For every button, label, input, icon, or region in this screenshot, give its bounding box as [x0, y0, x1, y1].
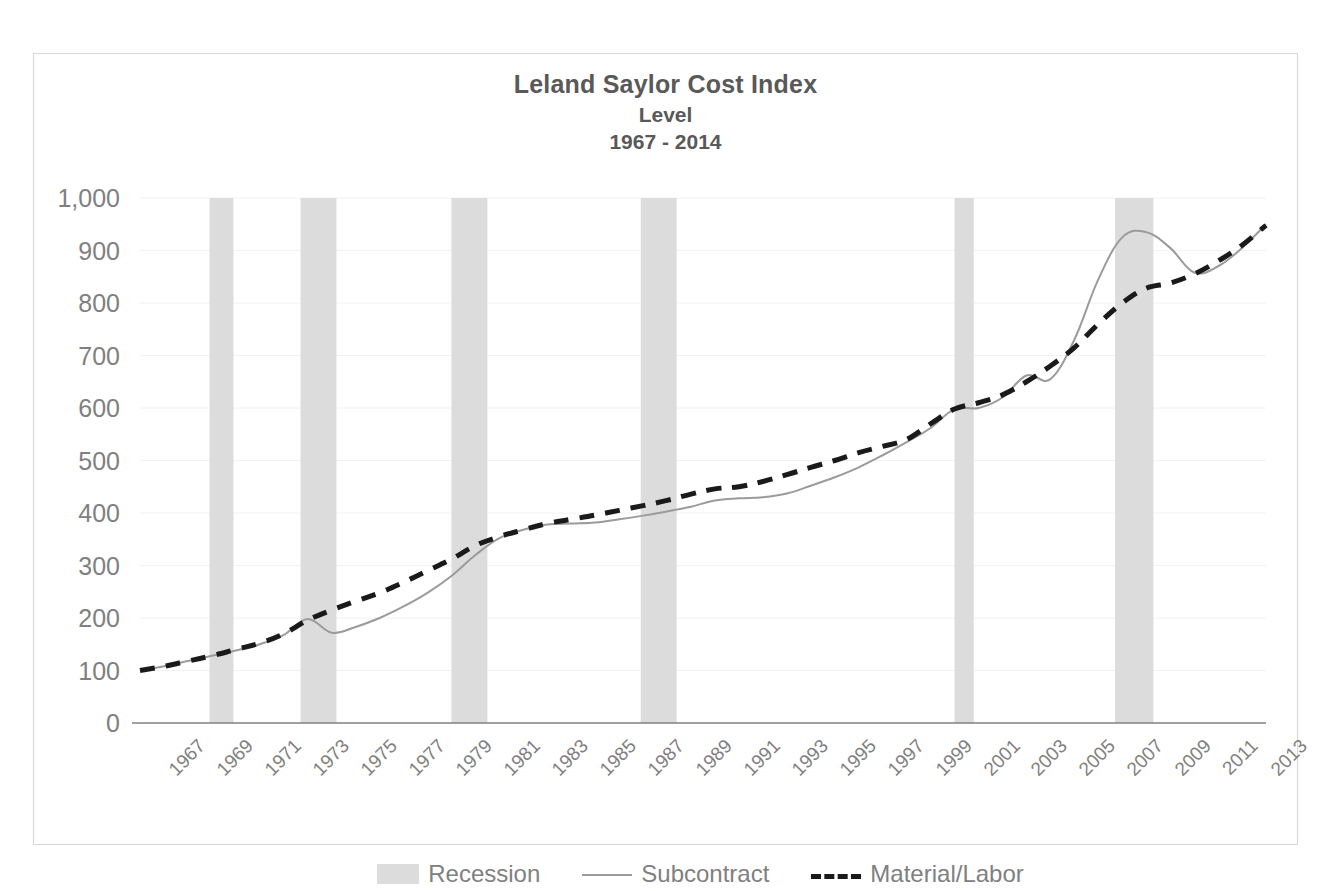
chart-legend: RecessionSubcontractMaterial/Labor: [34, 860, 1333, 888]
solid-line-swatch-icon: [582, 864, 632, 884]
y-tick-label: 600: [34, 394, 120, 423]
recession-swatch-icon: [377, 864, 419, 884]
recession-band: [641, 198, 677, 723]
legend-item[interactable]: Material/Labor: [811, 860, 1023, 888]
legend-label: Recession: [428, 860, 540, 888]
legend-item[interactable]: Subcontract: [582, 860, 769, 888]
y-tick-label: 0: [34, 709, 120, 738]
plot-area: [34, 54, 1299, 846]
legend-label: Subcontract: [641, 860, 769, 888]
y-tick-label: 400: [34, 499, 120, 528]
y-tick-label: 500: [34, 446, 120, 475]
recession-band: [301, 198, 337, 723]
y-tick-label: 300: [34, 551, 120, 580]
dashed-line-swatch-icon: [811, 864, 861, 884]
y-tick-label: 800: [34, 289, 120, 318]
y-tick-label: 1,000: [34, 184, 120, 213]
legend-item[interactable]: Recession: [377, 860, 540, 888]
recession-band: [451, 198, 487, 723]
recession-band: [955, 198, 974, 723]
legend-label: Material/Labor: [870, 860, 1023, 888]
y-tick-label: 900: [34, 236, 120, 265]
y-tick-label: 700: [34, 341, 120, 370]
recession-band: [209, 198, 233, 723]
chart-container: Leland Saylor Cost Index Level 1967 - 20…: [33, 53, 1298, 845]
y-tick-label: 100: [34, 656, 120, 685]
y-tick-label: 200: [34, 604, 120, 633]
recession-band: [1115, 198, 1153, 723]
